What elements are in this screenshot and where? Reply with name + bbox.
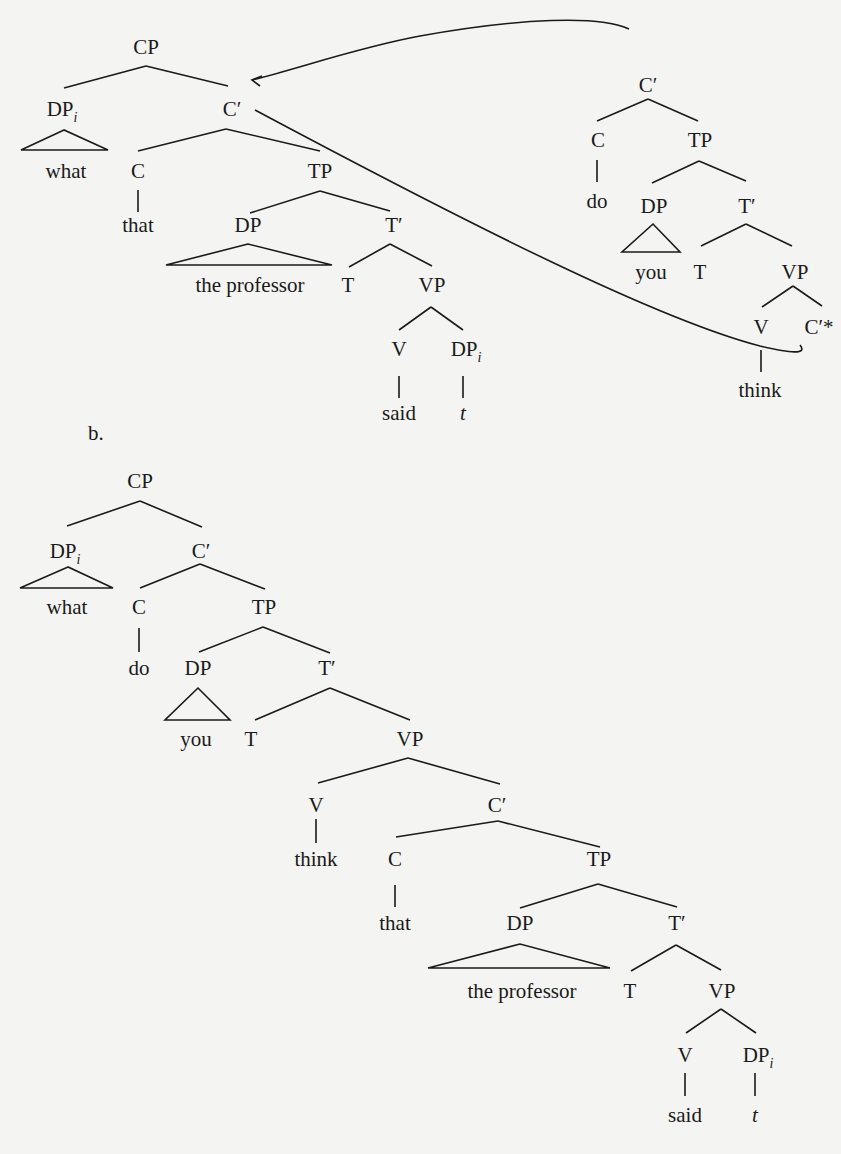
branch <box>648 99 698 121</box>
branch <box>140 564 200 588</box>
tree-b: CP DPi what C′ C do TP DP you T′ T VP V … <box>20 469 773 1127</box>
arrow-bottom-curve <box>255 110 802 352</box>
branch <box>701 224 746 246</box>
node-tbar: T′ <box>318 656 335 680</box>
branch <box>349 244 390 267</box>
branch <box>226 129 320 151</box>
branch <box>399 307 431 330</box>
node-t2: T <box>624 979 637 1003</box>
branch <box>67 501 140 526</box>
branch <box>652 161 699 183</box>
leaf-trace: t <box>460 401 467 425</box>
node-tp: TP <box>252 595 277 619</box>
leaf-you: you <box>635 260 667 284</box>
branch <box>520 884 598 908</box>
leaf-think: think <box>294 847 338 871</box>
branch <box>318 758 408 783</box>
node-tbar2: T′ <box>668 911 685 935</box>
node-t: T <box>694 260 707 284</box>
node-cbar-star: C′* <box>804 315 833 339</box>
branch <box>597 99 648 121</box>
node-t: T <box>342 273 355 297</box>
triangle <box>165 688 230 720</box>
node-cbar2: C′ <box>488 793 507 817</box>
node-cbar: C′ <box>223 97 242 121</box>
branch <box>320 191 390 211</box>
node-vp: VP <box>782 260 809 284</box>
branch <box>255 688 330 720</box>
adjunction-arrows <box>252 20 802 352</box>
leaf-you: you <box>180 727 212 751</box>
branch <box>330 688 410 720</box>
node-t: T <box>245 727 258 751</box>
node-tp: TP <box>688 128 713 152</box>
node-tp2: TP <box>587 847 612 871</box>
node-c: C <box>132 595 146 619</box>
leaf-said: said <box>382 401 416 425</box>
leaf-the-professor: the professor <box>467 979 576 1003</box>
node-cp: CP <box>127 469 153 493</box>
node-tbar: T′ <box>385 213 402 237</box>
node-dp-subj: DP <box>235 213 262 237</box>
branch <box>498 821 600 847</box>
branch <box>396 821 498 837</box>
leaf-said: said <box>668 1103 702 1127</box>
node-cbar: C′ <box>192 539 211 563</box>
branch <box>721 1009 756 1033</box>
node-c2: C <box>388 847 402 871</box>
branch <box>140 501 202 527</box>
triangle <box>166 244 332 265</box>
branch <box>199 627 263 652</box>
node-c: C <box>591 128 605 152</box>
branch <box>598 884 677 907</box>
triangle <box>428 944 610 968</box>
syntax-tree-figure: CP DPi what C′ C that TP DP the professo… <box>0 0 841 1154</box>
node-dp-obj: DPi <box>451 337 482 365</box>
part-b-label: b. <box>88 421 104 445</box>
node-dp-wh: DPi <box>47 97 78 125</box>
leaf-what: what <box>46 159 87 183</box>
branch <box>390 244 432 266</box>
node-tbar: T′ <box>738 194 755 218</box>
leaf-what: what <box>47 595 88 619</box>
leaf-do: do <box>129 656 150 680</box>
branch <box>200 564 265 589</box>
node-dp2: DP <box>507 911 534 935</box>
branch <box>699 161 746 181</box>
tree-a-right: C′ C do TP DP you T′ T VP V think C′* <box>587 73 834 402</box>
node-cbar: C′ <box>639 73 658 97</box>
node-v: V <box>753 315 768 339</box>
node-vp: VP <box>419 273 446 297</box>
node-tp: TP <box>308 159 333 183</box>
branch <box>138 129 226 151</box>
node-v2: V <box>677 1043 692 1067</box>
leaf-the-professor: the professor <box>195 273 304 297</box>
branch <box>686 1009 721 1033</box>
branch <box>746 224 792 246</box>
node-vp: VP <box>397 727 424 751</box>
branch <box>408 758 500 784</box>
node-cp: CP <box>133 35 159 59</box>
arrow-top-curve <box>252 20 629 80</box>
triangle <box>20 567 113 588</box>
branch <box>793 286 822 306</box>
branch <box>631 945 676 971</box>
node-vp2: VP <box>709 979 736 1003</box>
leaf-think: think <box>738 378 782 402</box>
leaf-that: that <box>379 911 411 935</box>
branch <box>762 286 793 307</box>
branch <box>146 66 228 86</box>
branch <box>64 66 146 88</box>
node-dp: DP <box>641 194 668 218</box>
branch <box>263 627 330 653</box>
leaf-do: do <box>587 189 608 213</box>
leaf-that: that <box>122 213 154 237</box>
triangle <box>622 224 680 252</box>
node-dp: DP <box>185 656 212 680</box>
branch <box>250 191 320 213</box>
leaf-trace: t <box>752 1103 759 1127</box>
node-c: C <box>131 159 145 183</box>
node-v: V <box>391 337 406 361</box>
tree-a-left: CP DPi what C′ C that TP DP the professo… <box>21 35 481 425</box>
triangle <box>21 130 108 150</box>
